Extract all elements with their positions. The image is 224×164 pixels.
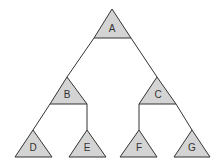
- node-e: E: [69, 130, 106, 157]
- node-d-label: D: [29, 142, 36, 153]
- node-e-label: E: [84, 142, 91, 153]
- node-a-label: A: [109, 23, 116, 34]
- edge-b-d: [33, 104, 50, 130]
- node-f-label: F: [136, 142, 142, 153]
- tree-diagram: A B C D E F G: [0, 0, 224, 164]
- node-g-label: G: [188, 142, 196, 153]
- node-g: G: [174, 130, 210, 157]
- edge-c-g: [176, 104, 192, 130]
- node-b-label: B: [64, 89, 71, 100]
- node-c-label: C: [154, 89, 161, 100]
- node-c: C: [139, 77, 176, 104]
- node-f: F: [120, 130, 157, 157]
- edge-a-b: [67, 38, 94, 77]
- node-d: D: [15, 130, 52, 157]
- edge-a-c: [131, 38, 157, 77]
- node-a: A: [94, 9, 131, 38]
- node-b: B: [50, 77, 87, 104]
